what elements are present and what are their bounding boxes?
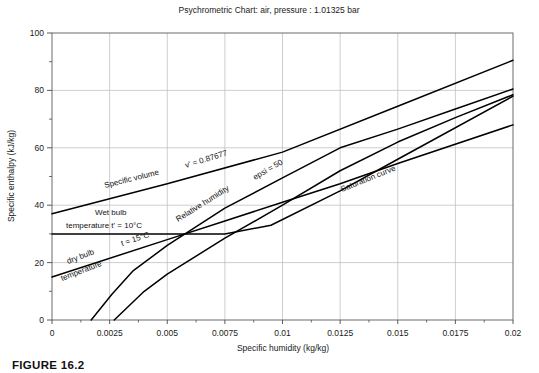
x-tick-label: 0.0025 <box>97 328 123 338</box>
x-tick-label: 0.0125 <box>327 328 353 338</box>
psychrometric-chart: Psychrometric Chart: air, pressure : 1.0… <box>0 0 539 373</box>
y-tick-label: 60 <box>35 143 45 153</box>
figure-container: Psychrometric Chart: air, pressure : 1.0… <box>0 0 539 373</box>
y-tick-label: 20 <box>35 258 45 268</box>
x-tick-label: 0.02 <box>505 328 522 338</box>
saturation-curve-annotation: Saturation curve <box>339 163 397 193</box>
x-tick-label: 0.01 <box>274 328 291 338</box>
y-tick-label: 0 <box>39 315 44 325</box>
chart-title: Psychrometric Chart: air, pressure : 1.0… <box>179 5 360 15</box>
x-axis-label: Specific humidity (kg/kg) <box>237 343 329 353</box>
relative-humidity-annotation: epsi = 50 <box>252 157 285 181</box>
y-axis-label: Specific enthalpy (kJ/kg) <box>6 130 16 222</box>
x-tick-label: 0.0175 <box>442 328 468 338</box>
specific-volume-annotation: v' = 0.87677 <box>184 148 229 170</box>
x-tick-label: 0.0075 <box>212 328 238 338</box>
dry-bulb-temperature-value: t = 15°C <box>120 230 151 248</box>
specific-volume-annotation: Specific volume <box>103 168 160 190</box>
figure-caption: FIGURE 16.2 <box>12 358 84 373</box>
wet-bulb-annotation-line2: temperature t' = 10°C <box>66 221 142 230</box>
x-tick-label: 0.005 <box>157 328 179 338</box>
x-tick-label: 0 <box>50 328 55 338</box>
curve-2 <box>91 89 513 320</box>
y-tick-label: 100 <box>30 28 44 38</box>
y-tick-label: 80 <box>35 85 45 95</box>
x-tick-label: 0.015 <box>387 328 409 338</box>
relative-humidity-annotation: Relative humidity <box>174 184 230 224</box>
y-tick-label: 40 <box>35 200 45 210</box>
wet-bulb-annotation-line1: Wet bulb <box>95 208 127 217</box>
